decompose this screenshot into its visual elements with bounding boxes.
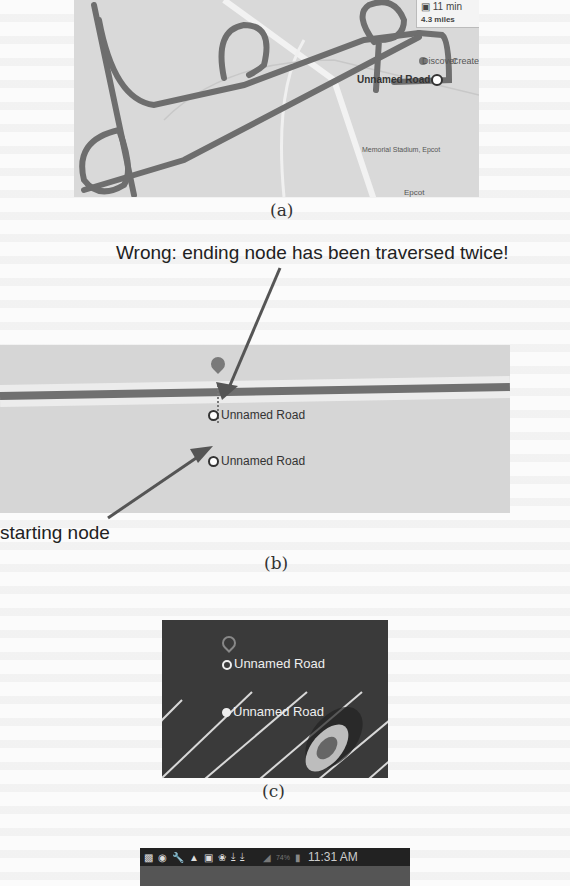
- caption-a: (a): [270, 200, 293, 220]
- figure-d-phone: ▩ ◉ 🔧 ▲ ▣ ❀ ⤓ ⤓ ◢ 74% ▮ 11:31 AM: [140, 848, 410, 886]
- battery-icon: ▮: [295, 852, 301, 863]
- route-callout: ▣ 11 min 4.3 miles: [416, 0, 479, 28]
- label-unnamed-road: Unnamed Road: [357, 74, 430, 85]
- annotation-arrows: [0, 260, 320, 540]
- status-bar: ▩ ◉ 🔧 ▲ ▣ ❀ ⤓ ⤓ ◢ 74% ▮ 11:31 AM: [140, 848, 410, 866]
- arrow-to-starting-node: [108, 452, 205, 518]
- image-icon: ▣: [204, 852, 213, 863]
- route-overview: [74, 0, 479, 197]
- download-icon: ⤓: [240, 851, 244, 863]
- status-time: 11:31 AM: [308, 850, 358, 864]
- sim-icon: ▩: [144, 852, 153, 863]
- car-icon: ▣: [421, 1, 430, 12]
- label-epcot: Epcot: [404, 188, 424, 197]
- wrench-icon: 🔧: [172, 852, 184, 863]
- label-memorial-station: Memorial Stadium, Epcot: [362, 146, 440, 153]
- battery-percent: 74%: [276, 854, 290, 861]
- caption-c: (c): [262, 781, 285, 801]
- download-icon: ⤓: [231, 851, 235, 863]
- signal-icon: ◢: [263, 852, 271, 863]
- node1-icon: [222, 660, 232, 670]
- warning-icon: ▲: [189, 852, 199, 863]
- node2-label: Unnamed Road: [222, 704, 324, 719]
- figure-a-map: ▣ 11 min 4.3 miles Discover Create Unnam…: [74, 0, 479, 197]
- accessibility-icon: ❀: [218, 852, 226, 863]
- figure-c-map: Unnamed Road Unnamed Road: [162, 620, 388, 778]
- parking-lines: [162, 620, 388, 778]
- location-icon: ◉: [158, 852, 167, 863]
- caption-b: (b): [264, 553, 288, 573]
- node1-label: Unnamed Road: [222, 656, 325, 671]
- arrow-to-ending-node: [228, 268, 280, 390]
- node2-icon: [222, 708, 231, 717]
- label-create: Create: [452, 56, 479, 66]
